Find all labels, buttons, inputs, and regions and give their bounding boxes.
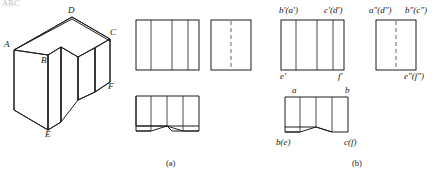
projection-label-b-prime-a-prime: b′(a′) <box>279 6 298 15</box>
vertex-label-f: F <box>108 82 114 91</box>
projection-label-b-dprime-c-dprime: b″(c″) <box>405 6 427 15</box>
side-view-a <box>211 20 251 70</box>
side-view-b <box>376 20 416 70</box>
projection-label-e-dprime-f-dprime: e″(f″) <box>404 72 424 81</box>
projection-label-b: b <box>345 86 350 95</box>
projection-label-c-f: c(f) <box>344 138 357 147</box>
projection-label-c-prime-d-prime: c′(d′) <box>324 6 342 15</box>
projection-label-a: a <box>292 86 297 95</box>
vertex-label-a: A <box>4 40 10 49</box>
front-view-a <box>136 20 199 70</box>
vertex-label-d: D <box>68 6 75 15</box>
vertex-label-b: B <box>41 56 47 65</box>
vertex-label-c: C <box>110 28 116 37</box>
front-view-b <box>281 20 344 70</box>
projection-label-e-prime: e′ <box>280 72 286 81</box>
drawing-canvas <box>0 0 446 181</box>
vertex-label-e: E <box>45 130 51 139</box>
top-view-b <box>285 97 348 132</box>
caption-b: (b) <box>352 158 362 168</box>
top-view-a <box>136 96 199 131</box>
projection-label-b-e: b(e) <box>276 138 291 147</box>
caption-a: (a) <box>166 158 175 168</box>
isometric-pictorial-view <box>14 17 110 130</box>
technical-drawing-figure: ABC <box>0 0 446 181</box>
projection-label-f-prime: f′ <box>338 72 342 81</box>
projection-label-a-dprime-d-dprime: a″(d″) <box>369 6 392 15</box>
